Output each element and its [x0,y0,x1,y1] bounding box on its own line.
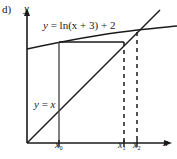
figure-panel: d) y x y = ln(x + 3) + 2 y = x x0 x1 x2 [0,0,177,159]
tick-label-x0: x0 [55,140,63,150]
identity-equation-rhs: x [51,98,56,110]
identity-equation-equals: = [42,98,48,110]
curve-equation-equals: = [51,19,57,31]
curve-equation-rhs: ln(x + 3) + 2 [60,19,116,31]
identity-equation-lhs: y [34,98,39,110]
tick-label-x1-subscript: 1 [122,144,125,151]
y-axis [24,8,30,143]
tick-label-x2: x2 [133,140,141,150]
tick-label-x0-subscript: 0 [59,144,62,151]
identity-equation-label: y = x [34,99,56,110]
x-axis-label: x [163,137,168,148]
curve-equation-lhs: y [43,19,48,31]
tick-label-x2-subscript: 2 [137,144,140,151]
y-axis-label: y [24,3,29,14]
x-axis [27,140,172,146]
tick-label-x1: x1 [118,140,126,150]
curve-equation-label: y = ln(x + 3) + 2 [43,20,115,31]
panel-label: d) [2,4,11,15]
